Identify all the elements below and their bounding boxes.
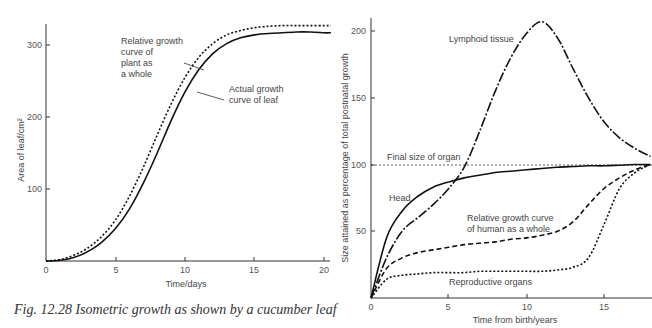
left-y-axis-label: Area of leaf/cm² xyxy=(16,118,26,182)
annot-head: Head xyxy=(389,193,411,203)
annot-relative-growth-human: Relative growth curve of human as a whol… xyxy=(467,213,556,234)
left-x-axis-label: Time/days xyxy=(165,279,207,289)
right-ytick: 200 xyxy=(351,26,366,36)
annot-reproductive-organs: Reproductive organs xyxy=(449,277,533,287)
leaf-growth-chart: 300 200 100 0 5 10 15 20 Time/days Area … xyxy=(16,24,331,289)
annot-relative-growth: Relative growth curve of plant as a whol… xyxy=(121,36,186,79)
right-xtick: 10 xyxy=(522,302,532,312)
left-ytick: 200 xyxy=(27,112,42,122)
actual-growth-leaf-curve xyxy=(46,32,331,261)
right-ytick: 100 xyxy=(351,160,366,170)
right-xtick: 5 xyxy=(445,302,450,312)
right-y-axis-label: Size attained as percentage of total pos… xyxy=(340,53,350,263)
left-ytick: 100 xyxy=(27,184,42,194)
figure-caption: Fig. 12.28 Isometric growth as shown by … xyxy=(14,302,337,318)
annot-leader-line xyxy=(197,92,224,100)
right-ytick: 50 xyxy=(356,226,366,236)
left-ytick: 300 xyxy=(27,40,42,50)
left-xtick: 15 xyxy=(249,265,259,275)
charts-canvas: 300 200 100 0 5 10 15 20 Time/days Area … xyxy=(0,0,652,328)
left-xtick: 20 xyxy=(319,265,329,275)
right-xtick: 0 xyxy=(368,302,373,312)
left-xtick: 5 xyxy=(113,265,118,275)
annot-final-size: Final size of organ xyxy=(387,152,461,162)
annot-actual-growth: Actual growth curve of leaf xyxy=(229,84,286,105)
right-ytick: 150 xyxy=(351,93,366,103)
left-xtick: 10 xyxy=(180,265,190,275)
right-x-axis-label: Time from birth/years xyxy=(473,315,558,325)
relative-growth-plant-curve xyxy=(46,26,331,261)
right-xtick: 15 xyxy=(599,302,609,312)
human-organ-growth-chart: 200 150 100 50 0 5 10 15 Time from birth… xyxy=(340,18,652,325)
left-xtick: 0 xyxy=(43,265,48,275)
annot-lymphoid-tissue: Lymphoid tissue xyxy=(449,34,514,44)
